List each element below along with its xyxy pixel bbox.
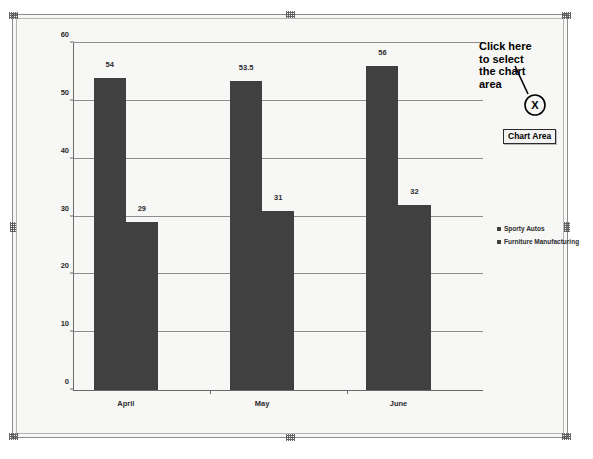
y-axis-tick-label: 40 (61, 145, 69, 154)
x-axis-tick (347, 390, 348, 394)
x-axis-tick (210, 390, 211, 394)
y-axis-tick (70, 42, 74, 43)
y-axis-tick (70, 99, 74, 100)
y-axis-tick-label: 30 (61, 203, 69, 212)
selection-handle-top-center[interactable] (286, 11, 295, 18)
bar-value-label: 53.5 (239, 63, 254, 72)
bar-value-label: 29 (138, 204, 146, 213)
bar-value-label: 31 (274, 193, 282, 202)
bar-value-label: 54 (106, 60, 114, 69)
selection-handle-top-left[interactable] (9, 12, 18, 19)
legend-label: Sporty Autos (504, 225, 545, 232)
legend-label: Furniture Manufacturing (504, 238, 579, 245)
callout-leader-and-marker: X (470, 36, 590, 136)
x-axis-category-label: June (390, 399, 408, 408)
bar[interactable] (398, 205, 430, 390)
leader-line (515, 66, 528, 94)
x-marker-label: X (531, 99, 539, 111)
selection-handle-bottom-left[interactable] (9, 433, 18, 440)
selection-handle-middle-right[interactable] (564, 222, 570, 232)
legend-swatch-icon (497, 227, 501, 231)
y-axis-tick-label: 50 (61, 87, 69, 96)
legend-swatch-icon (497, 240, 501, 244)
y-axis-tick (70, 389, 74, 390)
bar[interactable] (262, 211, 294, 390)
y-axis-tick (70, 215, 74, 216)
y-axis-tick-label: 10 (61, 319, 69, 328)
x-axis-category-label: April (117, 399, 134, 408)
y-axis-tick (70, 157, 74, 158)
gridline (74, 42, 483, 43)
y-axis-tick (70, 331, 74, 332)
gridline (74, 158, 483, 159)
x-axis-category-label: May (255, 399, 270, 408)
y-axis-tick-label: 20 (61, 261, 69, 270)
selection-handle-middle-left[interactable] (10, 222, 16, 232)
bar[interactable] (366, 66, 398, 390)
bar[interactable] (230, 81, 262, 390)
selection-handle-top-right[interactable] (562, 12, 571, 19)
y-axis-tick-label: 0 (65, 377, 69, 386)
y-axis-tick-label: 60 (61, 30, 69, 39)
plot-wrap: 0102030405060 542953.5315632 AprilMayJun… (47, 35, 483, 419)
bar[interactable] (126, 222, 158, 390)
bar-value-label: 32 (410, 187, 418, 196)
bar[interactable] (94, 78, 126, 390)
plot-area[interactable]: 0102030405060 542953.5315632 AprilMayJun… (73, 43, 483, 391)
selection-handle-bottom-center[interactable] (286, 434, 295, 441)
selection-handle-bottom-right[interactable] (562, 433, 571, 440)
legend-item[interactable]: Furniture Manufacturing (497, 238, 579, 245)
gridline (74, 100, 483, 101)
chart-area-tooltip: Chart Area (503, 129, 556, 144)
y-axis-tick (70, 273, 74, 274)
bar-value-label: 56 (378, 48, 386, 57)
